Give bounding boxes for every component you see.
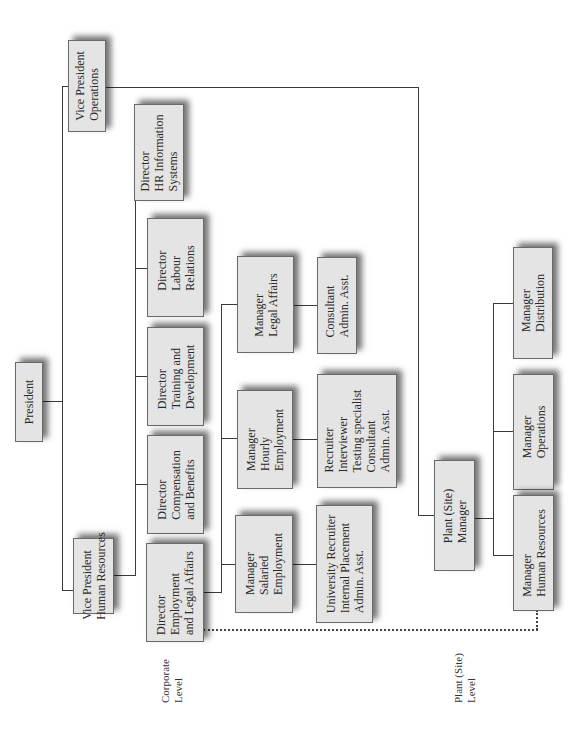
node-label: ManagerHourlyEmployment [244, 409, 286, 471]
node-label: DirectorEmploymentand Legal Affairs [154, 551, 196, 635]
connector [203, 592, 222, 593]
level-label-plant: Plant (Site)Level [452, 653, 478, 703]
connector [135, 268, 147, 269]
node-label: DirectorCompensationand Benefits [155, 450, 197, 519]
connector [293, 439, 318, 440]
node-label: DirectorTraining andDevelopment [155, 344, 197, 409]
level-label-corporate: CorporateLevel [159, 659, 185, 703]
connector [293, 564, 317, 565]
node-manager-hourly: ManagerHourlyEmployment [237, 390, 293, 489]
node-director-compensation: DirectorCompensationand Benefits [147, 435, 204, 534]
connector [493, 431, 513, 432]
connector [114, 575, 136, 576]
node-label: University RecruiterInternal PlacementAd… [324, 515, 366, 613]
connector [493, 303, 513, 304]
org-chart: Vice PresidentOperations President Vice … [0, 0, 578, 729]
dotted-connector [203, 629, 538, 631]
connector [493, 555, 513, 556]
connector [493, 303, 494, 556]
node-director-training: DirectorTraining andDevelopment [147, 327, 204, 426]
node-director-employment: DirectorEmploymentand Legal Affairs [146, 543, 204, 642]
node-director-labour: DirectorLabourRelations [147, 218, 204, 317]
node-president: President [15, 362, 43, 442]
connector [62, 86, 63, 591]
node-label: Plant (Site)Manager [441, 488, 469, 542]
connector [221, 438, 237, 439]
node-hourly-staff: RecruiterInterviewerTesting specialistCo… [317, 374, 397, 488]
node-label: RecruiterInterviewerTesting specialistCo… [322, 390, 392, 473]
node-vp-hr: Vice PresidentHuman Resources [73, 538, 114, 614]
connector [221, 304, 222, 593]
connector [135, 376, 147, 377]
node-manager-salaried: ManagerSalariedEmployment [235, 515, 293, 613]
connector [135, 484, 147, 485]
node-manager-plant-hr: ManagerHuman Resources [513, 495, 554, 611]
node-manager-distribution: ManagerDistribution [513, 247, 553, 359]
connector [62, 590, 73, 591]
connector [418, 515, 434, 516]
node-plant-manager: Plant (Site)Manager [434, 460, 475, 571]
node-label: ManagerLegal Affairs [252, 273, 280, 336]
node-manager-operations: ManagerOperations [513, 374, 554, 490]
connector [475, 518, 494, 519]
node-label: DirectorLabourRelations [155, 245, 197, 290]
node-vp-operations: Vice PresidentOperations [68, 40, 106, 132]
connector [294, 305, 318, 306]
node-label: ManagerSalariedEmployment [243, 533, 285, 595]
node-label: President [22, 380, 36, 425]
node-label: Vice PresidentHuman Resources [80, 532, 108, 620]
node-label: ConsultantAdmin. Asst. [323, 274, 351, 337]
connector [418, 87, 419, 516]
node-director-hris: DirectorHR InformationSystems [134, 104, 184, 201]
node-label: ManagerDistribution [519, 274, 547, 332]
node-legal-staff: ConsultantAdmin. Asst. [317, 257, 357, 354]
connector [106, 87, 419, 88]
dotted-connector [536, 610, 538, 630]
node-label: ManagerHuman Resources [520, 509, 548, 597]
node-manager-legal: ManagerLegal Affairs [237, 256, 294, 353]
connector [221, 304, 237, 305]
node-label: Vice PresidentOperations [73, 51, 101, 121]
node-label: ManagerOperations [520, 406, 548, 459]
node-salaried-staff: University RecruiterInternal PlacementAd… [316, 505, 373, 623]
node-label: DirectorHR InformationSystems [138, 114, 180, 191]
connector [135, 152, 136, 576]
connector [43, 401, 63, 402]
